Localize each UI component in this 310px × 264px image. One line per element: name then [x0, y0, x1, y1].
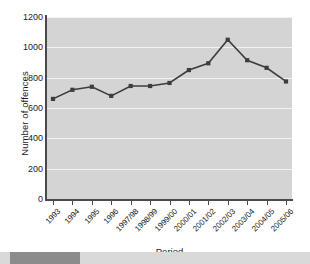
y-tick-label: 400 — [20, 133, 43, 143]
data-point-marker — [148, 84, 152, 88]
y-tick-label: 600 — [20, 103, 43, 113]
x-tick-mark — [286, 201, 287, 205]
page-scan-strip — [0, 252, 310, 264]
x-tick-label: 1993 — [44, 207, 63, 226]
x-tick-mark — [92, 201, 93, 205]
data-point-marker — [167, 81, 171, 85]
data-point-marker — [226, 38, 230, 42]
x-tick-mark — [53, 201, 54, 205]
data-point-marker — [187, 68, 191, 72]
y-tick-label: 200 — [20, 164, 43, 174]
data-series-offences — [47, 17, 292, 199]
x-tick-mark — [131, 201, 132, 205]
y-axis-tick-labels: 020040060080010001200 — [20, 0, 43, 240]
chart-figure: Number of offences 020040060080010001200… — [0, 0, 310, 240]
x-tick-mark — [228, 201, 229, 205]
series-line — [53, 40, 286, 99]
scan-strip-block — [10, 252, 80, 264]
data-point-marker — [284, 79, 288, 83]
x-tick-mark — [150, 201, 151, 205]
x-tick-label: 1994 — [63, 207, 82, 226]
data-point-marker — [70, 88, 74, 92]
y-tick-label: 0 — [20, 194, 43, 204]
y-tick-label: 1000 — [20, 42, 43, 52]
x-tick-mark — [267, 201, 268, 205]
x-tick-label: 1995 — [83, 207, 102, 226]
plot-area — [47, 17, 292, 199]
x-tick-mark — [247, 201, 248, 205]
data-point-marker — [245, 58, 249, 62]
x-tick-mark — [208, 201, 209, 205]
data-point-marker — [90, 85, 94, 89]
y-tick-label: 1200 — [20, 12, 43, 22]
data-point-marker — [129, 84, 133, 88]
data-point-marker — [264, 66, 268, 70]
x-tick-mark — [170, 201, 171, 205]
data-point-marker — [206, 61, 210, 65]
data-point-marker — [109, 94, 113, 98]
y-tick-label: 800 — [20, 73, 43, 83]
x-tick-mark — [189, 201, 190, 205]
x-tick-mark — [72, 201, 73, 205]
x-tick-mark — [111, 201, 112, 205]
data-point-marker — [51, 97, 55, 101]
